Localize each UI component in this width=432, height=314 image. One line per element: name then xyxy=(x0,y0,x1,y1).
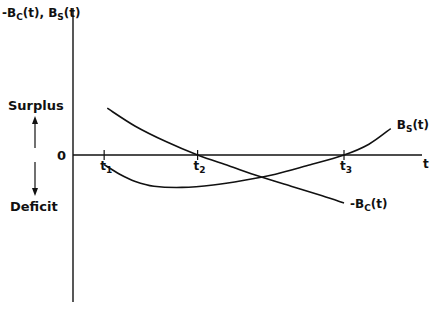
series-label-bs: BS(t) xyxy=(397,118,429,134)
x-tick-label: t1 xyxy=(100,159,112,175)
x-axis-label: t xyxy=(423,157,429,171)
surplus-arrow-icon xyxy=(32,116,38,124)
series-line-bs xyxy=(104,129,391,188)
deficit-arrow-icon xyxy=(32,188,38,196)
surplus-label: Surplus xyxy=(8,98,64,113)
y-axis-label: -BC(t), BS(t) xyxy=(2,6,81,22)
chart: -BC(t), BS(t) 0 t Surplus Deficit t1t2t3… xyxy=(0,0,432,314)
origin-label: 0 xyxy=(57,148,66,163)
series-label-neg-bc: -BC(t) xyxy=(350,197,387,213)
x-tick-label: t3 xyxy=(340,159,352,175)
deficit-label: Deficit xyxy=(10,199,58,214)
x-tick-label: t2 xyxy=(194,159,206,175)
